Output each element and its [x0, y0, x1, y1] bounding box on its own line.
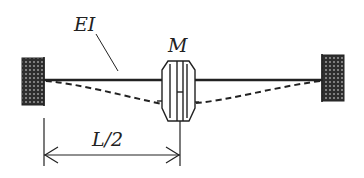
- mass-label: M: [167, 34, 188, 56]
- disk-mass: [157, 61, 199, 121]
- left-fixed-support: [22, 57, 44, 106]
- rotor-shaft-diagram: EI M L/2: [0, 0, 364, 178]
- stiffness-label: EI: [73, 13, 96, 35]
- dimension-label: L/2: [91, 128, 123, 150]
- stiffness-label-group: EI: [73, 13, 118, 71]
- right-fixed-support: [322, 54, 344, 102]
